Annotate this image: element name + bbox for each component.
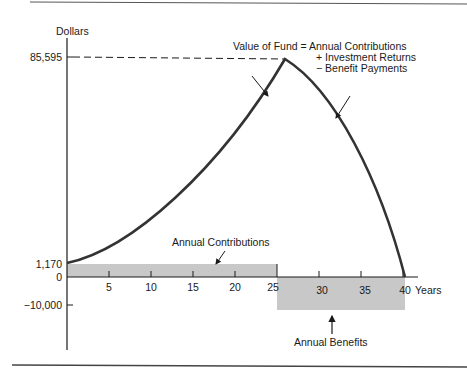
- x-label-5: 5: [106, 281, 112, 293]
- y-label-contrib: 1,170: [36, 258, 62, 270]
- y-label-neg: −10,000: [24, 299, 62, 311]
- x-label-10: 10: [145, 281, 157, 293]
- arrow-to-rising-curve: [252, 76, 268, 96]
- pension-fund-chart: Dollars 85,595 1,170 0 −10,000 5 10 15 2…: [0, 0, 467, 379]
- y-label-peak: 85,595: [30, 51, 62, 63]
- arrow-to-contributions: [216, 251, 225, 264]
- x-label-30: 30: [316, 284, 328, 296]
- annual-benefits-band: [277, 277, 405, 310]
- x-axis-title: Years: [415, 284, 441, 296]
- peak-dashed-line: [73, 57, 285, 59]
- contributions-label: Annual Contributions: [172, 236, 269, 248]
- bottom-rule: [12, 365, 467, 367]
- arrow-to-falling-curve: [336, 96, 350, 118]
- formula-line-3: − Benefit Payments: [316, 62, 407, 74]
- x-label-40: 40: [399, 284, 411, 296]
- y-label-zero: 0: [56, 271, 62, 283]
- x-label-15: 15: [187, 281, 199, 293]
- x-label-20: 20: [229, 281, 241, 293]
- benefits-label: Annual Benefits: [294, 336, 368, 348]
- x-label-35: 35: [359, 284, 371, 296]
- x-label-25: 25: [267, 281, 279, 293]
- annual-contributions-band: [67, 264, 277, 277]
- y-axis-title: Dollars: [56, 25, 89, 37]
- top-rule: [30, 2, 467, 4]
